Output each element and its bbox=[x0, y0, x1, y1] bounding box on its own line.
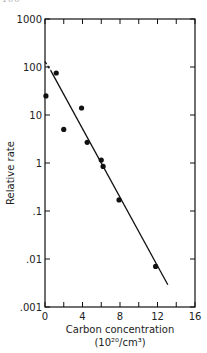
y-axis-title: Relative rate bbox=[5, 141, 16, 205]
y-tick-label: 100 bbox=[23, 62, 42, 73]
data-point bbox=[116, 197, 121, 202]
x-tick-label: 12 bbox=[151, 311, 164, 322]
y-tick-label: .1 bbox=[32, 206, 42, 217]
x-tick-label: 0 bbox=[42, 311, 48, 322]
data-point bbox=[79, 105, 84, 110]
y-tick-label: 10 bbox=[29, 110, 42, 121]
fit-line-dashed bbox=[45, 62, 51, 71]
x-tick-label: 4 bbox=[79, 311, 85, 322]
y-tick-label: 1 bbox=[36, 158, 42, 169]
x-axis-title: Carbon concentration bbox=[66, 324, 174, 335]
data-point bbox=[61, 127, 66, 132]
y-tick-label: .001 bbox=[20, 302, 42, 313]
data-point bbox=[101, 164, 106, 169]
data-point bbox=[85, 140, 90, 145]
data-point bbox=[99, 157, 104, 162]
x-tick-label: 8 bbox=[117, 311, 123, 322]
x-axis-units: (10²⁰/cm³) bbox=[94, 337, 145, 348]
data-point bbox=[54, 70, 59, 75]
chart: 04812161000100101.1.01.001Carbon concent… bbox=[0, 0, 207, 353]
y-tick-label: 1000 bbox=[17, 14, 42, 25]
y-tick-label: .01 bbox=[26, 254, 42, 265]
x-tick-label: 16 bbox=[189, 311, 202, 322]
data-point bbox=[43, 93, 48, 98]
fit-line bbox=[51, 70, 168, 284]
data-point bbox=[153, 264, 158, 269]
plot-frame bbox=[45, 19, 195, 307]
